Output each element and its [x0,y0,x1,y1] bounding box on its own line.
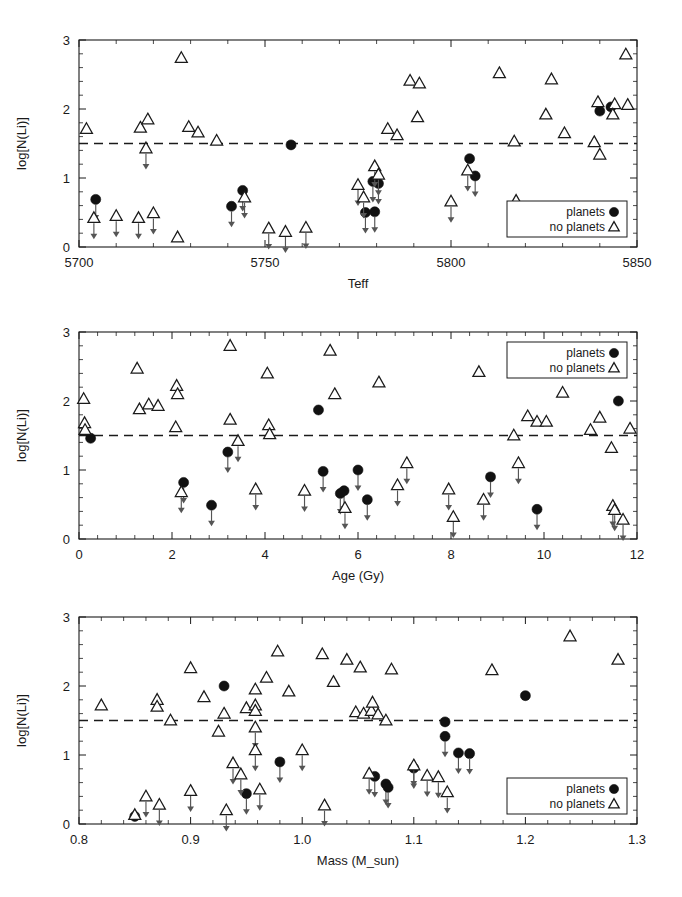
x-tick-label: 1.1 [405,832,423,847]
data-point-no-planets [296,744,308,755]
upper-limit-arrowhead [276,777,283,783]
chart-2: 0.80.91.01.11.21.30123Mass (M_sun)log[N(… [0,577,682,877]
data-point-no-planets [250,483,262,494]
data-point-no-planets [508,135,520,146]
x-axis-title: Mass (M_sun) [317,853,399,868]
data-point-no-planets [164,714,176,725]
lithium-abundance-figure: 57005750580058500123Tefflog[N(Li)]planet… [0,0,682,897]
data-point-no-planets [211,135,223,146]
upper-limit-arrowhead [252,505,259,511]
data-point-no-planets [443,483,455,494]
data-point-no-planets [172,231,184,242]
upper-limit-arrowhead [371,227,378,233]
data-point-no-planets [404,75,416,86]
data-point-planets [353,465,363,475]
data-point-no-planets [408,759,420,770]
x-tick-label: 0.9 [182,832,200,847]
data-point-no-planets [401,457,413,468]
x-tick-label: 4 [261,547,268,562]
data-point-no-planets [447,511,459,522]
y-tick-label: 2 [63,394,70,409]
y-tick-label: 2 [63,679,70,694]
x-tick-label: 0 [75,547,82,562]
upper-limit-arrowhead [371,792,378,798]
upper-limit-arrowhead [224,468,231,474]
upper-limit-arrowhead [487,492,494,498]
upper-limit-arrowhead [243,809,250,815]
data-point-no-planets [421,770,433,781]
data-point-planets [286,140,296,150]
upper-limit-arrowhead [369,197,376,203]
upper-limit-arrowhead [223,826,230,832]
data-point-no-planets [142,113,154,124]
upper-limit-arrowhead [424,791,431,797]
data-point-no-planets [95,699,107,710]
data-point-no-planets [175,52,187,63]
data-point-planets [465,154,475,164]
legend-label-planets: planets [566,346,605,360]
x-tick-label: 5800 [437,255,466,270]
y-axis-title: log[N(Li)] [14,117,29,170]
data-point-no-planets [140,790,152,801]
data-point-no-planets [263,222,275,233]
y-tick-label: 1 [63,463,70,478]
upper-limit-arrowhead [362,228,369,234]
x-tick-label: 6 [354,547,361,562]
data-point-no-planets [382,123,394,134]
data-point-no-planets [254,783,266,794]
data-point-no-planets [594,411,606,422]
data-point-no-planets [232,435,244,446]
data-point-no-planets [212,725,224,736]
x-tick-label: 8 [447,547,454,562]
x-tick-label: 12 [630,547,644,562]
data-point-no-planets [605,442,617,453]
data-point-planets [179,477,189,487]
data-point-no-planets [260,672,272,683]
upper-limit-arrowhead [230,779,237,785]
data-point-no-planets [324,344,336,355]
upper-limit-arrowhead [241,213,248,219]
legend: planetsno planets [507,778,627,814]
data-point-no-planets [412,111,424,122]
x-tick-label: 2 [168,547,175,562]
upper-limit-arrowhead [375,190,382,196]
upper-limit-arrowhead [282,248,289,254]
data-point-no-planets [170,421,182,432]
upper-limit-arrowhead [464,186,471,192]
legend-label-no-planets: no planets [550,220,605,234]
data-point-no-planets [592,96,604,107]
y-tick-label: 3 [63,33,70,48]
data-point-planets [370,207,380,217]
upper-limit-arrowhead [355,486,362,492]
data-point-no-planets [110,210,122,221]
data-point-no-planets [283,685,295,696]
data-point-planets [453,748,463,758]
data-point-planets [440,731,450,741]
data-point-no-planets [272,645,284,656]
upper-limit-arrowhead [320,487,327,493]
data-point-no-planets [175,486,187,497]
y-tick-label: 1 [63,171,70,186]
upper-limit-arrowhead [301,506,308,512]
data-point-planets [465,749,475,759]
x-tick-label: 0.8 [70,832,88,847]
upper-limit-arrowhead [445,505,452,511]
data-point-no-planets [183,121,195,132]
upper-limit-arrowhead [480,515,487,521]
data-point-planets [532,504,542,514]
upper-limit-arrowhead [113,232,120,238]
data-point-planets [595,106,605,116]
data-point-no-planets [432,771,444,782]
upper-limit-arrowhead [435,793,442,799]
legend-label-planets: planets [566,205,605,219]
panel-mass: 0.80.91.01.11.21.30123Mass (M_sun)log[N(… [0,577,682,882]
upper-limit-arrowhead [156,820,163,826]
upper-limit-arrowhead [178,508,185,514]
y-axis-title: log[N(Li)] [14,409,29,462]
legend-label-no-planets: no planets [550,361,605,375]
data-point-no-planets [152,400,164,411]
upper-limit-arrowhead [611,526,618,532]
upper-limit-arrowhead [342,524,349,530]
data-point-planets [91,194,101,204]
upper-limit-arrowhead [143,812,150,818]
